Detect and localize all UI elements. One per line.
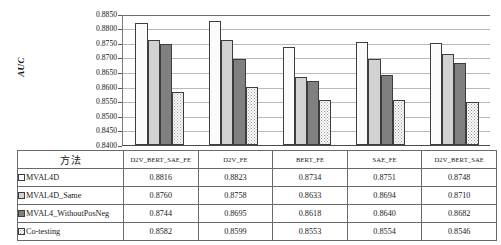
y-tick-label-9: 0.8400 [96,142,117,150]
bar-4-0 [430,43,442,145]
legend-entry-2: MVAL4_WithoutPosNeg [18,205,124,223]
bar-3-0 [356,42,368,145]
table-body: MVAL4D0.88160.88230.87340.87510.8748MVAL… [18,169,497,241]
bar-group-0 [123,15,197,146]
cell-r0-c1: 0.8823 [198,169,273,187]
cell-r2-c2: 0.8618 [273,205,348,223]
table-header-row: 方法 D2V_BERT_SAE_FE D2V_FE BERT_FE SAE_FE… [18,151,497,169]
cell-r1-c3: 0.8694 [347,187,422,205]
header-col-1: D2V_FE [198,151,273,169]
bar-1-1 [221,40,233,145]
y-tick-label-4: 0.8650 [96,69,117,77]
bar-group-2 [270,15,344,146]
cell-r3-c1: 0.8599 [198,223,273,241]
legend-label-0: MVAL4D [26,173,59,182]
y-tick-label-2: 0.8750 [96,40,117,48]
bar-4-1 [442,54,454,145]
y-tick-label-0: 0.8850 [96,11,117,19]
cell-r0-c0: 0.8816 [124,169,199,187]
cell-r0-c2: 0.8734 [273,169,348,187]
y-tick-label-5: 0.8600 [96,84,117,92]
legend-label-3: Co-testing [26,227,60,236]
y-tick-mark-9 [118,146,122,147]
header-method: 方法 [18,151,124,169]
legend-entry-1: MVAL4D_Same [18,187,124,205]
bar-3-1 [368,59,380,145]
legend-label-2: MVAL4_WithoutPosNeg [26,209,109,218]
legend-swatch-icon-1 [18,192,25,199]
y-tick-label-7: 0.8500 [96,113,117,121]
header-col-4: D2V_BERT_SAE [422,151,497,169]
bar-0-2 [160,44,172,145]
cell-r2-c1: 0.8695 [198,205,273,223]
header-col-0: D2V_BERT_SAE_FE [124,151,199,169]
y-axis-tick-labels: 0.88500.88000.87500.87000.86500.86000.85… [86,12,122,146]
cell-r2-c0: 0.8744 [124,205,199,223]
bar-0-1 [148,40,160,145]
bar-4-2 [454,63,466,145]
legend-entry-0: MVAL4D [18,169,124,187]
bar-group-4 [417,15,491,146]
cell-r3-c2: 0.8553 [273,223,348,241]
bar-0-3 [172,92,184,145]
bar-2-3 [319,100,331,145]
bar-4-3 [466,102,478,145]
header-col-3: SAE_FE [347,151,422,169]
y-tick-label-3: 0.8700 [96,54,117,62]
plot-area [122,15,490,147]
cell-r1-c1: 0.8758 [198,187,273,205]
table-row: MVAL4D0.88160.88230.87340.87510.8748 [18,169,497,187]
legend-swatch-icon-3 [18,228,25,235]
cell-r1-c4: 0.8710 [422,187,497,205]
bar-1-3 [246,87,258,145]
cell-r3-c0: 0.8582 [124,223,199,241]
cell-r1-c0: 0.8760 [124,187,199,205]
legend-data-table: 方法 D2V_BERT_SAE_FE D2V_FE BERT_FE SAE_FE… [17,150,497,241]
table-head: 方法 D2V_BERT_SAE_FE D2V_FE BERT_FE SAE_FE… [18,151,497,169]
legend-label-1: MVAL4D_Same [26,191,81,200]
y-axis-title: AUC [16,37,26,97]
chart-figure: AUC 0.88500.88000.87500.87000.86500.8600… [0,0,501,245]
y-tick-label-8: 0.8450 [96,127,117,135]
header-col-2: BERT_FE [273,151,348,169]
bar-group-1 [197,15,271,146]
bar-1-0 [209,21,221,145]
bar-group-3 [344,15,418,146]
bar-2-1 [295,77,307,145]
bar-chart: AUC 0.88500.88000.87500.87000.86500.8600… [0,0,501,150]
bar-2-0 [283,47,295,145]
y-tick-label-6: 0.8550 [96,98,117,106]
legend-entry-3: Co-testing [18,223,124,241]
y-tick-label-1: 0.8800 [96,25,117,33]
bar-3-2 [381,75,393,145]
bar-0-0 [135,23,147,145]
bar-2-2 [307,81,319,145]
cell-r2-c4: 0.8682 [422,205,497,223]
bars-layer [123,15,490,146]
legend-swatch-icon-0 [18,174,25,181]
legend-swatch-icon-2 [18,210,25,217]
table-row: MVAL4D_Same0.87600.87580.86330.86940.871… [18,187,497,205]
table-row: MVAL4_WithoutPosNeg0.87440.86950.86180.8… [18,205,497,223]
cell-r1-c2: 0.8633 [273,187,348,205]
cell-r3-c3: 0.8554 [347,223,422,241]
table-row: Co-testing0.85820.85990.85530.85540.8546 [18,223,497,241]
bar-3-3 [393,100,405,145]
cell-r0-c3: 0.8751 [347,169,422,187]
bar-1-2 [233,59,245,145]
cell-r3-c4: 0.8546 [422,223,497,241]
cell-r2-c3: 0.8640 [347,205,422,223]
cell-r0-c4: 0.8748 [422,169,497,187]
